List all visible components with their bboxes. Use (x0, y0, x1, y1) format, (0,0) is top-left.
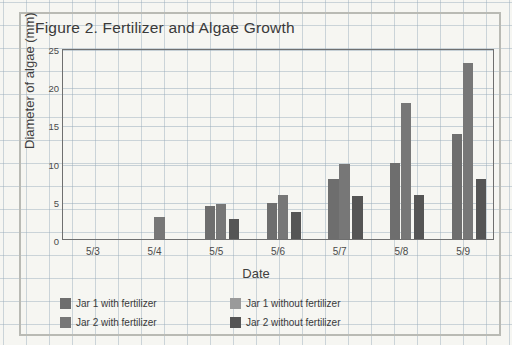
y-axis-tick: 5 (54, 197, 59, 208)
bar (390, 163, 401, 239)
legend-label: Jar 1 without fertilizer (246, 298, 340, 309)
bar (229, 219, 240, 239)
legend-swatch-icon (230, 317, 241, 328)
bar (339, 164, 350, 239)
bar (328, 179, 339, 239)
bar (216, 204, 227, 239)
bar (476, 179, 487, 239)
legend-item: Jar 2 without fertilizer (230, 317, 400, 328)
y-gridline (63, 88, 493, 89)
y-axis-tick: 25 (48, 45, 59, 56)
bar (291, 212, 302, 240)
bar (352, 196, 363, 239)
legend-label: Jar 1 with fertilizer (76, 298, 157, 309)
legend-label: Jar 2 without fertilizer (246, 317, 340, 328)
x-axis-label: Date (0, 266, 512, 281)
chart-title: Figure 2. Fertilizer and Algae Growth (35, 19, 295, 37)
x-axis-tick: 5/5 (209, 246, 223, 257)
bar (205, 206, 216, 239)
x-axis-tick: 5/6 (271, 246, 285, 257)
x-axis-tick: 5/9 (456, 246, 470, 257)
y-gridline (63, 165, 493, 166)
legend-swatch-icon (230, 298, 241, 309)
legend-item: Jar 1 without fertilizer (230, 298, 400, 309)
plot-inner (63, 50, 493, 239)
bar (154, 217, 165, 239)
y-axis-tick: 15 (48, 121, 59, 132)
x-axis-tick: 5/8 (394, 246, 408, 257)
x-axis-tick: 5/7 (333, 246, 347, 257)
x-axis-tick: 5/4 (148, 246, 162, 257)
legend-item: Jar 2 with fertilizer (60, 317, 230, 328)
y-axis-tick: 20 (48, 83, 59, 94)
bar (414, 195, 425, 239)
y-axis-label: Diameter of algae (mm) (22, 12, 37, 149)
y-gridline (63, 126, 493, 127)
bar (278, 195, 289, 239)
legend-swatch-icon (60, 317, 71, 328)
legend-item: Jar 1 with fertilizer (60, 298, 230, 309)
chart-legend: Jar 1 with fertilizerJar 1 without ferti… (60, 298, 390, 328)
bar (267, 203, 278, 239)
bar (401, 103, 412, 239)
y-gridline (63, 50, 493, 51)
bar (452, 134, 463, 239)
y-axis-tick: 0 (54, 236, 59, 247)
x-axis-tick: 5/3 (86, 246, 100, 257)
bar (463, 63, 474, 239)
legend-label: Jar 2 with fertilizer (76, 317, 157, 328)
plot-area: 0510152025 (62, 49, 494, 240)
figure-page: Figure 2. Fertilizer and Algae Growth Di… (0, 0, 512, 345)
y-axis-tick: 10 (48, 159, 59, 170)
legend-swatch-icon (60, 298, 71, 309)
